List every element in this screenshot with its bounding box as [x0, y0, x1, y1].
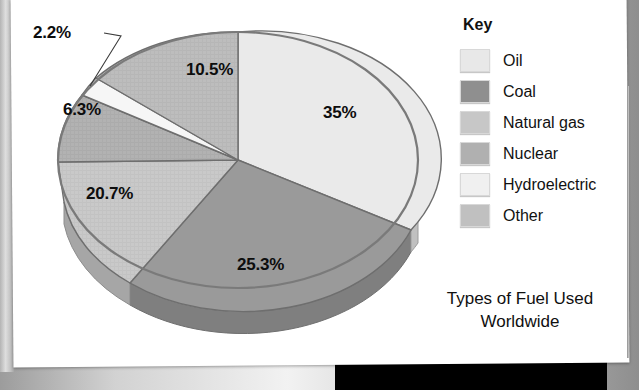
legend-item-other[interactable]: Other [460, 200, 632, 231]
pie-label-oil: 35% [323, 103, 356, 123]
pie-label-nuclear: 6.3% [63, 100, 101, 120]
legend-swatch-oil [460, 49, 490, 72]
pie-label-hydroelectric: 2.2% [33, 23, 71, 43]
legend-label-natural-gas: Natural gas [503, 114, 585, 132]
chart-title-line-2: Worldwide [418, 310, 622, 333]
legend-item-oil[interactable]: Oil [460, 45, 632, 76]
legend-swatch-other [460, 204, 490, 227]
legend-swatch-nuclear [460, 142, 490, 165]
pie-label-other: 10.5% [186, 60, 233, 80]
legend-swatch-coal [460, 80, 490, 103]
chart-title-line-1: Types of Fuel Used [418, 287, 622, 310]
screenshot-root: 35% 25.3% 20.7% 6.3% 2.2% 10.5% Key Oil … [0, 0, 639, 390]
legend-label-oil: Oil [503, 52, 523, 70]
pie-chart-figure: 35% 25.3% 20.7% 6.3% 2.2% 10.5% Key Oil … [0, 0, 639, 390]
chart-legend: Key Oil Coal Natural gas Nuclear Hydroel… [460, 16, 632, 231]
legend-swatch-natural-gas [460, 111, 490, 134]
legend-label-hydroelectric: Hydroelectric [503, 176, 596, 194]
pie-label-coal: 25.3% [237, 255, 284, 275]
legend-label-coal: Coal [503, 83, 536, 101]
legend-item-coal[interactable]: Coal [460, 76, 632, 107]
legend-label-nuclear: Nuclear [503, 145, 558, 163]
legend-item-nuclear[interactable]: Nuclear [460, 138, 632, 169]
legend-item-natural-gas[interactable]: Natural gas [460, 107, 632, 138]
pie-chart-svg [26, 14, 446, 334]
legend-title: Key [463, 16, 632, 34]
legend-item-hydroelectric[interactable]: Hydroelectric [460, 169, 632, 200]
legend-swatch-hydroelectric [460, 173, 490, 196]
legend-label-other: Other [503, 207, 543, 225]
pie-label-natural-gas: 20.7% [86, 184, 133, 204]
chart-title: Types of Fuel Used Worldwide [418, 287, 622, 333]
